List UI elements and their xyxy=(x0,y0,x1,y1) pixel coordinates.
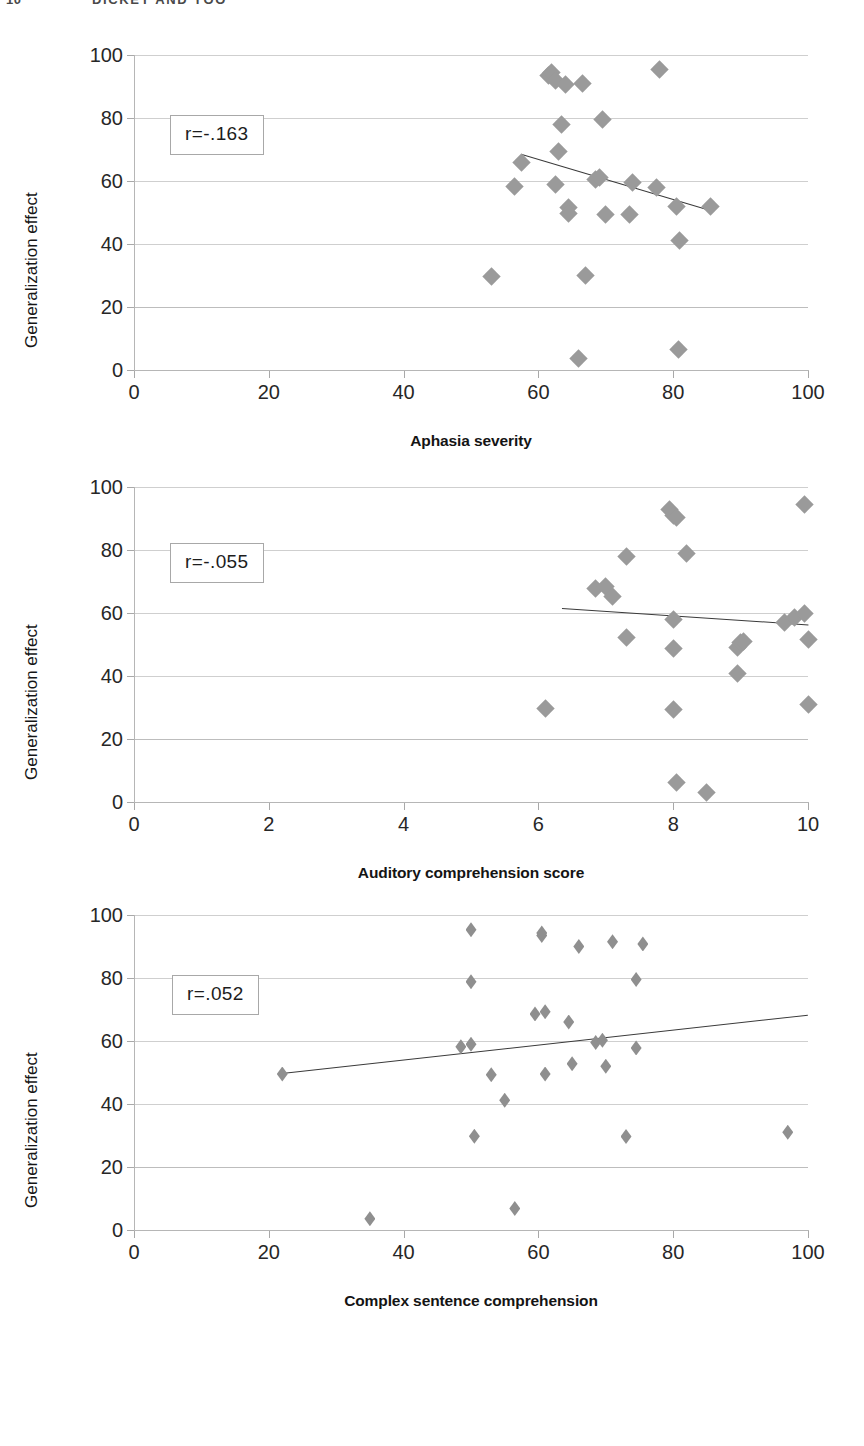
data-point xyxy=(698,783,716,801)
tick-x xyxy=(269,802,270,810)
x-axis-line xyxy=(134,370,809,371)
tick-x xyxy=(134,802,135,810)
tick-x xyxy=(538,370,539,378)
x-tick-label: 2 xyxy=(263,813,274,836)
tick-x xyxy=(673,1230,674,1238)
x-axis-line xyxy=(134,1230,809,1231)
tick-x xyxy=(538,802,539,810)
x-tick-label: 100 xyxy=(791,381,824,404)
data-point xyxy=(486,1067,497,1082)
x-tick-label: 10 xyxy=(797,813,819,836)
tick-y xyxy=(127,181,134,182)
data-point xyxy=(466,974,477,989)
y-tick-label: 20 xyxy=(101,728,123,751)
tick-x xyxy=(269,1230,270,1238)
running-head: 10 DICKEY AND YOO xyxy=(0,0,864,12)
tick-x xyxy=(673,802,674,810)
correlation-annotation: r=.052 xyxy=(172,975,259,1015)
figure-auditory-comprehension: 0204060801000246810r=-.055Auditory compr… xyxy=(0,460,864,890)
tick-x xyxy=(269,370,270,378)
data-point xyxy=(600,1059,611,1074)
data-point xyxy=(576,266,594,284)
y-tick-label: 100 xyxy=(90,904,123,927)
y-axis-title: Generalization effect xyxy=(22,192,42,348)
data-point xyxy=(549,143,567,161)
data-point xyxy=(799,696,817,714)
data-point xyxy=(277,1067,288,1082)
tick-x xyxy=(673,370,674,378)
x-tick-label: 0 xyxy=(128,813,139,836)
tick-x xyxy=(404,370,405,378)
y-tick-label: 100 xyxy=(90,44,123,67)
y-tick-label: 60 xyxy=(101,1030,123,1053)
data-point xyxy=(795,495,813,513)
gridline-y xyxy=(134,1104,808,1105)
tick-y xyxy=(127,978,134,979)
y-tick-label: 60 xyxy=(101,170,123,193)
tick-x xyxy=(404,1230,405,1238)
data-point xyxy=(593,110,611,128)
tick-y xyxy=(127,1104,134,1105)
data-point xyxy=(540,1004,551,1019)
y-tick-label: 20 xyxy=(101,1156,123,1179)
data-point xyxy=(466,922,477,937)
data-point xyxy=(563,1015,574,1030)
figure-aphasia-severity: 020406080100020406080100r=-.163Aphasia s… xyxy=(0,28,864,468)
correlation-annotation: r=-.055 xyxy=(170,543,264,583)
data-point xyxy=(499,1093,510,1108)
y-axis-title: Generalization effect xyxy=(22,624,42,780)
data-point xyxy=(546,175,564,193)
data-point xyxy=(617,628,635,646)
data-point xyxy=(651,60,669,78)
x-tick-label: 6 xyxy=(533,813,544,836)
gridline-y xyxy=(134,307,808,308)
x-tick-label: 0 xyxy=(128,381,139,404)
x-tick-label: 100 xyxy=(791,1241,824,1264)
data-point xyxy=(701,198,719,216)
x-tick-label: 20 xyxy=(258,381,280,404)
y-axis-line xyxy=(134,915,135,1231)
y-axis-line xyxy=(134,487,135,803)
plot-area: 020406080100020406080100r=-.163 xyxy=(134,55,808,370)
trend-line xyxy=(562,608,808,625)
tick-y xyxy=(127,1230,134,1231)
data-point xyxy=(631,972,642,987)
tick-x xyxy=(808,1230,809,1238)
x-tick-label: 40 xyxy=(392,381,414,404)
figure-complex-sentence-comprehension: 020406080100020406080100r=.052Complex se… xyxy=(0,888,864,1338)
tick-y xyxy=(127,487,134,488)
data-point xyxy=(667,197,685,215)
data-point xyxy=(664,701,682,719)
gridline-y xyxy=(134,613,808,614)
tick-y xyxy=(127,802,134,803)
x-axis-line xyxy=(134,802,809,803)
gridline-y xyxy=(134,55,808,56)
trend-line xyxy=(282,1014,808,1073)
tick-y xyxy=(127,613,134,614)
tick-x xyxy=(808,802,809,810)
x-tick-label: 80 xyxy=(662,381,684,404)
y-tick-label: 40 xyxy=(101,1093,123,1116)
y-tick-label: 40 xyxy=(101,233,123,256)
tick-y xyxy=(127,55,134,56)
tick-y xyxy=(127,550,134,551)
data-point xyxy=(799,631,817,649)
x-tick-label: 0 xyxy=(128,1241,139,1264)
x-tick-label: 40 xyxy=(392,1241,414,1264)
y-tick-label: 100 xyxy=(90,476,123,499)
gridline-y xyxy=(134,181,808,182)
tick-y xyxy=(127,307,134,308)
tick-y xyxy=(127,370,134,371)
x-axis-title: Complex sentence comprehension xyxy=(134,1292,808,1310)
tick-y xyxy=(127,676,134,677)
tick-y xyxy=(127,244,134,245)
data-point xyxy=(621,1129,632,1144)
data-point xyxy=(782,1125,793,1140)
data-point xyxy=(482,267,500,285)
data-point xyxy=(506,177,524,195)
gridline-y xyxy=(134,676,808,677)
plot-area: 0204060801000246810r=-.055 xyxy=(134,487,808,802)
tick-y xyxy=(127,118,134,119)
x-tick-label: 4 xyxy=(398,813,409,836)
y-tick-label: 20 xyxy=(101,296,123,319)
